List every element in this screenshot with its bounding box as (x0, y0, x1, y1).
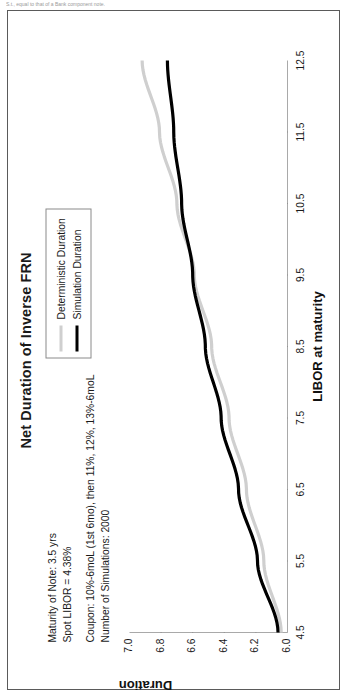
annotation-group: Maturity of Note: 3.5 yrs Spot LIBOR = 4… (45, 312, 74, 642)
y-tick-label: 7.0 (122, 638, 133, 664)
y-tick-label: 6.0 (280, 638, 291, 664)
plot-area (129, 60, 287, 632)
annotation-block: Maturity of Note: 3.5 yrs Spot LIBOR = 4… (45, 312, 121, 642)
y-tick-label: 6.2 (248, 638, 259, 664)
y-tick-label: 6.6 (185, 638, 196, 664)
annotation-line: Spot LIBOR = 4.38% (60, 312, 75, 642)
x-tick-label: 7.5 (294, 401, 305, 435)
annotation-line: Coupon: 10%-6moL (1st 6mo), then 11%, 12… (83, 312, 98, 642)
legend-label: Deterministic Duration (55, 218, 66, 319)
annotation-group: Coupon: 10%-6moL (1st 6mo), then 11%, 12… (83, 312, 112, 642)
scanned-page: S.t., equal to that of a Bank component … (0, 0, 347, 698)
x-tick-label: 11.5 (294, 115, 305, 149)
page-top-caption: S.t., equal to that of a Bank component … (6, 0, 336, 9)
y-tick-label: 6.4 (217, 638, 228, 664)
x-tick-label: 10.5 (294, 186, 305, 220)
x-tick-label: 9.5 (294, 258, 305, 292)
x-tick-label: 8.5 (294, 329, 305, 363)
legend-item-simulation-duration: Simulation Duration (68, 218, 84, 351)
x-tick-label: 12.5 (294, 43, 305, 77)
chart-title: Net Duration of Inverse FRN (17, 12, 33, 688)
rotated-figure-canvas: Net Duration of Inverse FRN Maturity of … (9, 12, 338, 688)
x-tick-label: 5.5 (294, 544, 305, 578)
annotation-line: Number of Simulations: 2000 (98, 312, 113, 642)
annotation-line: Maturity of Note: 3.5 yrs (45, 312, 60, 642)
figure-frame: Net Duration of Inverse FRN Maturity of … (7, 10, 340, 690)
chart: Net Duration of Inverse FRN Maturity of … (9, 12, 338, 688)
legend-label: Simulation Duration (71, 229, 82, 319)
legend-item-deterministic-duration: Deterministic Duration (52, 218, 68, 351)
y-tick-label: 6.8 (154, 638, 165, 664)
x-axis-title: LIBOR at maturity (309, 60, 324, 632)
legend-swatch-line (59, 325, 62, 351)
y-axis-title: Duration (85, 677, 205, 692)
x-tick-label: 4.5 (294, 615, 305, 649)
plot-svg (129, 60, 287, 632)
x-tick-label: 6.5 (294, 472, 305, 506)
chart-legend: Deterministic Duration Simulation Durati… (45, 208, 91, 358)
legend-swatch-line (75, 325, 78, 351)
